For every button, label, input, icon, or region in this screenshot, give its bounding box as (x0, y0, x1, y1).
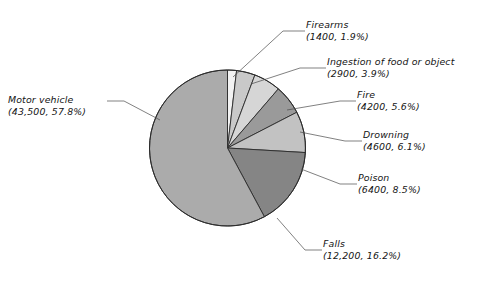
slice-label-motor-vehicle-name: Motor vehicle (8, 94, 86, 106)
slice-label-ingestion-value: (2900, 3.9%) (327, 68, 454, 80)
pie-chart-figure: Motor vehicle (43,500, 57.8%) Firearms (… (0, 0, 493, 287)
slice-label-drowning: Drowning (4600, 6.1%) (363, 129, 426, 153)
slice-label-fire: Fire (4200, 5.6%) (357, 89, 420, 113)
slice-label-poison: Poison (6400, 8.5%) (358, 172, 421, 196)
pie-slice-group (149, 70, 305, 226)
slice-label-falls-name: Falls (323, 238, 401, 250)
slice-label-falls-value: (12,200, 16.2%) (323, 250, 401, 262)
slice-label-falls: Falls (12,200, 16.2%) (323, 238, 401, 262)
leader-line-drowning (300, 132, 362, 141)
slice-label-ingestion-name: Ingestion of food or object (327, 56, 454, 68)
slice-label-poison-name: Poison (358, 172, 421, 184)
leader-line-motor-vehicle (107, 101, 160, 120)
slice-label-firearms-name: Firearms (306, 19, 369, 31)
slice-label-drowning-value: (4600, 6.1%) (363, 141, 426, 153)
slice-label-firearms: Firearms (1400, 1.9%) (306, 19, 369, 43)
slice-label-motor-vehicle: Motor vehicle (43,500, 57.8%) (8, 94, 86, 118)
slice-label-firearms-value: (1400, 1.9%) (306, 31, 369, 43)
slice-label-fire-value: (4200, 5.6%) (357, 101, 420, 113)
slice-label-motor-vehicle-value: (43,500, 57.8%) (8, 106, 86, 118)
leader-line-fire (287, 101, 356, 110)
slice-label-ingestion: Ingestion of food or object (2900, 3.9%) (327, 56, 454, 80)
slice-label-drowning-name: Drowning (363, 129, 426, 141)
leader-line-poison (301, 169, 357, 184)
slice-label-fire-name: Fire (357, 89, 420, 101)
leader-line-falls (277, 218, 322, 250)
slice-label-poison-value: (6400, 8.5%) (358, 184, 421, 196)
